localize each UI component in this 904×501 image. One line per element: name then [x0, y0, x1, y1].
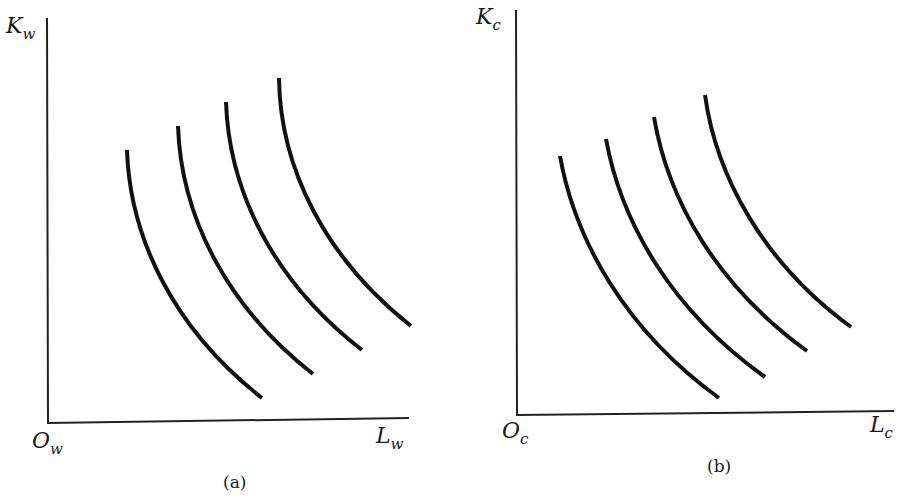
panel-b-isoquant-1 [560, 156, 719, 398]
panel-b-axes [516, 10, 894, 415]
isoquant-figure: Kw Ow Lw (a) Kc [0, 0, 904, 501]
panel-a-x-axis-label: Lw [375, 423, 404, 453]
panel-b-isoquant-3 [654, 117, 807, 351]
panel-b-isoquant-2 [606, 139, 765, 377]
panel-a-y-axis-label: Kw [5, 13, 35, 43]
panel-a-axes [47, 18, 409, 423]
panel-b-x-axis-label: Lc [869, 412, 894, 442]
isoquant-diagram: Kw Ow Lw (a) Kc [0, 0, 904, 501]
panel-b-isoquant-4 [705, 95, 851, 327]
panel-b: Kc Oc Lc (b) [475, 4, 894, 476]
panel-b-caption: (b) [707, 456, 731, 476]
panel-a-caption: (a) [223, 472, 246, 492]
panel-b-y-axis-label: Kc [475, 4, 501, 34]
panel-b-origin-label: Oc [502, 418, 529, 448]
panel-a-origin-label: Ow [32, 428, 63, 458]
panel-a: Kw Ow Lw (a) [5, 13, 411, 492]
panel-a-isoquant-3 [226, 102, 362, 350]
